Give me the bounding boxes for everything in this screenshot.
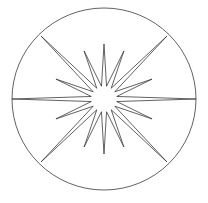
star-rosette-svg — [0, 0, 208, 203]
outer-circle — [12, 8, 196, 190]
figure-canvas — [0, 0, 208, 203]
sixteen-point-star — [12, 36, 196, 162]
